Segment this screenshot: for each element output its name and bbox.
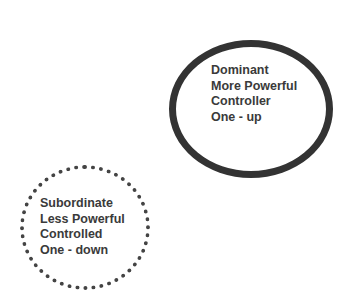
subordinate-line-2: Less Powerful xyxy=(40,212,125,228)
subordinate-label: Subordinate Less Powerful Controlled One… xyxy=(40,196,125,258)
dominant-label: Dominant More Powerful Controller One - … xyxy=(211,63,297,125)
dominant-line-3: Controller xyxy=(211,94,297,110)
subordinate-line-1: Subordinate xyxy=(40,196,125,212)
subordinate-line-4: One - down xyxy=(40,243,125,259)
dominant-line-4: One - up xyxy=(211,110,297,126)
subordinate-line-3: Controlled xyxy=(40,227,125,243)
dominant-line-1: Dominant xyxy=(211,63,297,79)
dominant-line-2: More Powerful xyxy=(211,79,297,95)
